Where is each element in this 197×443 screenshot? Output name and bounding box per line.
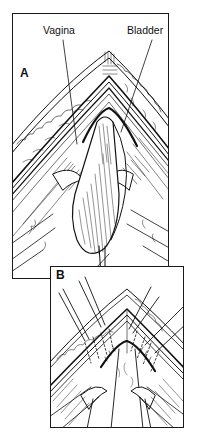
panel-letter-a: A [20,67,29,79]
panel-a: Vagina Bladder A [12,13,169,279]
panel-b-drawing [51,267,184,428]
panel-a-drawing [13,14,169,279]
label-bladder: Bladder [127,25,163,36]
surgical-illustration: Vagina Bladder A [0,0,197,443]
panel-b: B [50,266,184,428]
panel-letter-b: B [56,269,65,281]
label-vagina: Vagina [43,25,75,36]
